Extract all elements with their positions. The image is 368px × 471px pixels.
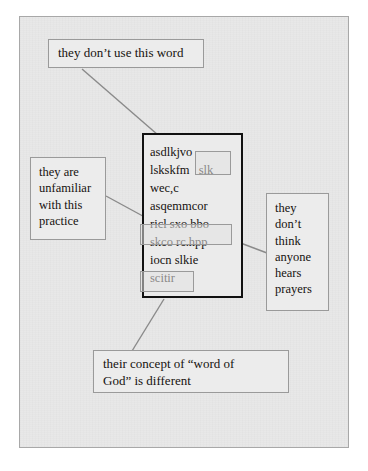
callout-they-are-unfamiliar[interactable]: they are unfamiliar with this practice <box>30 157 106 240</box>
callout-left-line-1: they are <box>39 164 105 180</box>
callout-left-line-4: practice <box>39 213 105 229</box>
highlight-box-slk[interactable] <box>195 151 231 175</box>
callout-right-line-1: they <box>275 200 328 216</box>
callout-their-concept-of-word-of-god[interactable]: their concept of “word of God” is differ… <box>93 350 289 393</box>
highlight-box-bbo[interactable] <box>140 224 232 245</box>
text-line-4: asqemmcor <box>150 197 241 215</box>
highlight-box-scitir[interactable] <box>140 271 194 292</box>
callout-bottom-line-2: God” is different <box>103 373 288 390</box>
central-text-block[interactable]: asdlkjvo lskskfm slk wec,c asqemmcor ric… <box>142 133 243 298</box>
callout-right-line-5: hears <box>275 265 328 281</box>
callout-top-line-1: they don’t use this word <box>58 45 195 62</box>
text-line-3: wec,c <box>150 179 241 197</box>
callout-left-line-3: with this <box>39 197 105 213</box>
callout-they-dont-use-this-word[interactable]: they don’t use this word <box>48 39 204 68</box>
text-line-2-text: lskskfm <box>150 163 190 177</box>
callout-bottom-line-1: their concept of “word of <box>103 356 288 373</box>
callout-right-line-3: think <box>275 233 328 249</box>
callout-right-line-4: anyone <box>275 249 328 265</box>
cut-off-body-text <box>0 0 368 3</box>
text-line-7: iocn slkie <box>150 251 241 269</box>
callout-right-line-2: don’t <box>275 216 328 232</box>
figure-canvas: they don’t use this word they are unfami… <box>0 0 368 471</box>
callout-they-dont-think-anyone-hears-prayers[interactable]: they don’t think anyone hears prayers <box>266 193 329 311</box>
callout-right-line-6: prayers <box>275 281 328 297</box>
callout-left-line-2: unfamiliar <box>39 180 105 196</box>
